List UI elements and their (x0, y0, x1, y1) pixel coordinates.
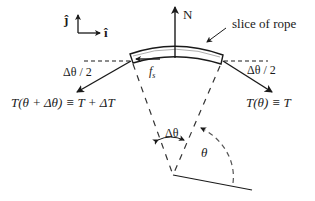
rope-free-body-diagram: ĵ î N slice of rope fs Δθ / 2 Δθ / 2 T(θ… (0, 0, 315, 201)
half-angle-right-label: Δθ / 2 (247, 64, 276, 76)
i-unit-label: î (104, 26, 108, 39)
half-angle-left-label: Δθ / 2 (63, 66, 92, 78)
tension-left-label: T(θ + Δθ) ≡ T + ΔT (11, 96, 115, 109)
friction-label: fs (149, 65, 155, 80)
tension-right-label: T(θ) ≡ T (246, 96, 291, 109)
slice-pointer-arrow-icon (207, 28, 226, 42)
rope-slice (130, 46, 223, 64)
j-unit-label: ĵ (64, 13, 68, 26)
right-radial-dashed-line (173, 66, 220, 175)
delta-theta-label: Δθ (165, 127, 178, 139)
left-radial-dashed-line (133, 64, 173, 175)
reference-baseline (173, 175, 252, 190)
slice-of-rope-label: slice of rope (232, 17, 296, 30)
theta-label: θ (201, 146, 207, 159)
normal-force-label: N (183, 8, 192, 21)
unit-vector-axes (78, 15, 100, 33)
